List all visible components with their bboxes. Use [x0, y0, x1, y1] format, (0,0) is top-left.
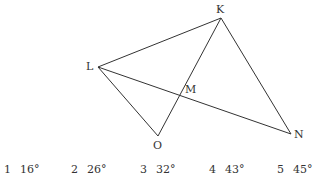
geometry-figure: [0, 0, 313, 150]
point-label-M: M: [185, 84, 196, 96]
choice-number: 2: [71, 163, 78, 176]
point-label-L: L: [86, 61, 93, 73]
point-label-K: K: [216, 4, 224, 16]
choice-number: 1: [4, 163, 11, 176]
choice-value: 26°: [87, 163, 107, 176]
choice-5[interactable]: 545°: [277, 164, 313, 176]
choice-1[interactable]: 116°: [4, 164, 40, 176]
choice-3[interactable]: 332°: [140, 164, 176, 176]
choice-number: 5: [277, 163, 284, 176]
segment-LK: [98, 18, 221, 67]
segment-OK: [158, 18, 221, 136]
choice-2[interactable]: 226°: [71, 164, 107, 176]
choice-value: 32°: [156, 163, 176, 176]
choice-number: 3: [140, 163, 147, 176]
choice-number: 4: [209, 163, 216, 176]
segment-KN: [221, 18, 291, 134]
choice-4[interactable]: 443°: [209, 164, 245, 176]
answer-choices: 116° 226° 332° 443° 545°: [0, 164, 313, 180]
point-label-O: O: [153, 140, 162, 152]
choice-value: 45°: [293, 163, 313, 176]
choice-value: 16°: [20, 163, 40, 176]
choice-value: 43°: [225, 163, 245, 176]
point-label-N: N: [294, 129, 304, 141]
